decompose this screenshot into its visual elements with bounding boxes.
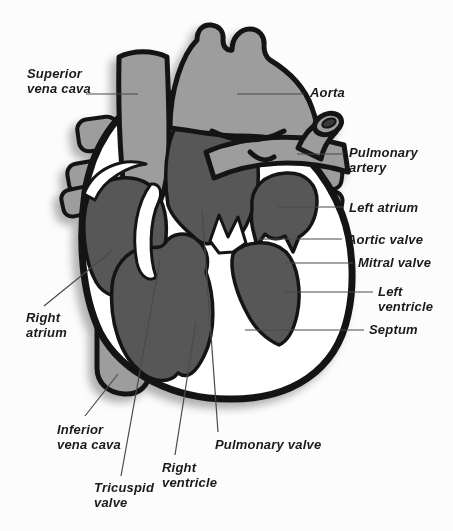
diagram-stage: Superior vena cava Aorta Pulmonary arter…: [0, 0, 453, 531]
heart-illustration: [60, 25, 352, 399]
label-septum: Septum: [369, 322, 418, 337]
label-aorta: Aorta: [310, 85, 345, 100]
label-mitral-valve: Mitral valve: [358, 255, 431, 270]
label-right-ventricle: Right ventricle: [162, 460, 217, 490]
label-inferior-vena-cava: Inferior vena cava: [57, 422, 121, 452]
label-superior-vena-cava: Superior vena cava: [27, 66, 91, 96]
heart-anatomy-figure: { "diagram": { "type": "heart-anatomy-cr…: [0, 0, 453, 531]
label-tricuspid-valve: Tricuspid valve: [94, 480, 154, 510]
label-pulmonary-artery: Pulmonary artery: [349, 145, 418, 175]
right-ventricle-chamber: [112, 234, 213, 380]
aorta-vessel: [170, 25, 318, 152]
label-right-atrium: Right atrium: [26, 310, 67, 340]
label-left-atrium: Left atrium: [349, 200, 418, 215]
label-pulmonary-valve: Pulmonary valve: [215, 437, 321, 452]
label-aortic-valve: Aortic valve: [347, 232, 423, 247]
label-left-ventricle: Left ventricle: [378, 284, 433, 314]
